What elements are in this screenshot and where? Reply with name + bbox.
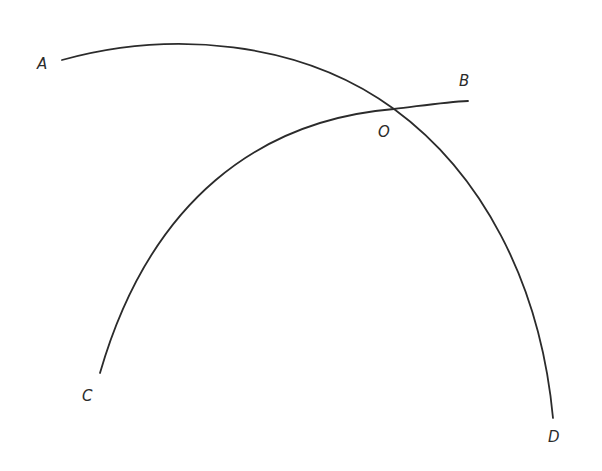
- point-label-a: A: [36, 55, 47, 73]
- point-label-o-intersection: O: [378, 123, 390, 141]
- point-label-b: B: [459, 72, 469, 90]
- diagram-canvas: A B O C D: [0, 0, 602, 471]
- arc-a-to-d: [62, 44, 553, 418]
- point-label-c: C: [82, 387, 93, 405]
- arc-c-to-b: [100, 101, 468, 373]
- point-label-d: D: [548, 428, 560, 446]
